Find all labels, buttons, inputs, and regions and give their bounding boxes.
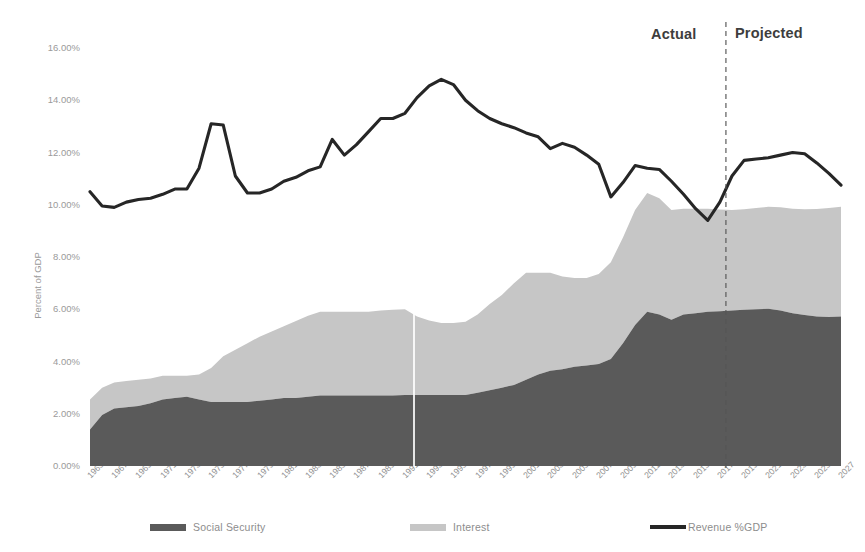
chart-legend: Social SecurityInterestRevenue %GDP	[90, 518, 842, 538]
legend-swatch-area-icon	[410, 524, 446, 531]
legend-item-label: Revenue %GDP	[688, 521, 767, 533]
render-artifact-line	[413, 300, 415, 466]
legend-swatch-area-icon	[150, 524, 186, 531]
plot-area	[0, 0, 865, 552]
legend-item[interactable]: Revenue %GDP	[650, 518, 767, 536]
legend-item-label: Social Security	[193, 521, 265, 533]
legend-swatch-line-icon	[650, 525, 686, 529]
legend-item[interactable]: Interest	[410, 518, 490, 536]
line-series-revenue-pct-gdp	[90, 79, 841, 220]
legend-item[interactable]: Social Security	[150, 518, 265, 536]
chart-root: Actual Projected Percent of GDP 0.00%2.0…	[0, 0, 865, 552]
legend-item-label: Interest	[453, 521, 490, 533]
